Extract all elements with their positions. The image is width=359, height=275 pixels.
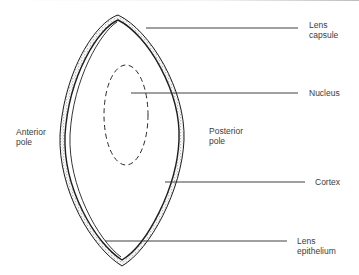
lens-diagram (0, 0, 359, 275)
label-lens-capsule: Lens capsule (309, 20, 338, 40)
lens-capsule-band (60, 15, 184, 266)
label-nucleus: Nucleus (309, 88, 340, 98)
label-anterior-pole: Anterior pole (16, 127, 46, 147)
label-cortex: Cortex (315, 177, 340, 187)
label-posterior-pole: Posterior pole (209, 126, 243, 146)
label-lens-epithelium: Lens epithelium (297, 236, 336, 256)
